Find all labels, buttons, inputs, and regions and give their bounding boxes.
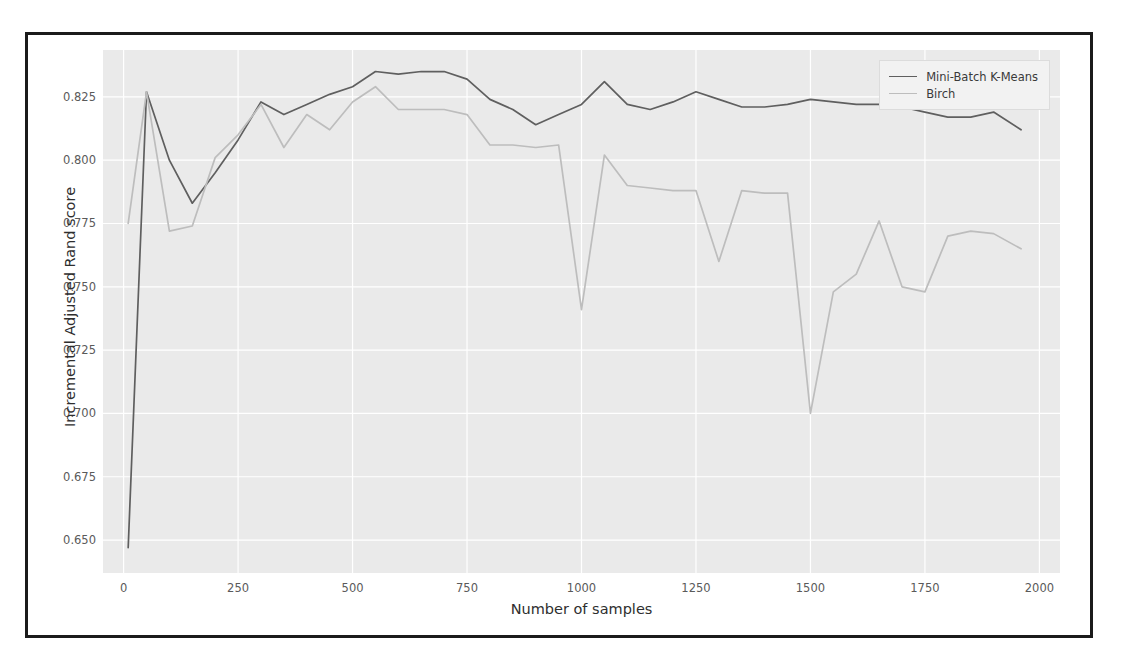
legend[interactable]: Mini-Batch K-MeansBirch xyxy=(879,60,1050,110)
x-tick-label: 500 xyxy=(342,581,364,595)
y-tick-label: 0.675 xyxy=(63,470,96,484)
legend-item[interactable]: Birch xyxy=(889,85,1038,102)
legend-line-swatch xyxy=(889,93,917,94)
x-tick-label: 1500 xyxy=(796,581,825,595)
data-lines xyxy=(103,50,1060,573)
legend-item[interactable]: Mini-Batch K-Means xyxy=(889,68,1038,85)
x-tick-label: 250 xyxy=(227,581,249,595)
y-tick-label: 0.650 xyxy=(63,533,96,547)
legend-line-swatch xyxy=(889,76,917,77)
x-tick-label: 1250 xyxy=(681,581,710,595)
legend-label: Mini-Batch K-Means xyxy=(926,70,1038,84)
scanned-page: 0.6500.6750.7000.7250.7500.7750.8000.825… xyxy=(0,0,1123,670)
page-frame: 0.6500.6750.7000.7250.7500.7750.8000.825… xyxy=(25,32,1093,638)
y-axis-label: Incremental Adjusted Rand score xyxy=(62,157,78,457)
plot-area: Mini-Batch K-MeansBirch xyxy=(103,50,1060,573)
x-tick-label: 0 xyxy=(120,581,127,595)
x-axis-label: Number of samples xyxy=(103,601,1060,617)
x-axis-tick-labels: 025050075010001250150017502000 xyxy=(103,581,1060,599)
y-axis-label-wrapper: Incremental Adjusted Rand score xyxy=(42,35,66,595)
x-tick-label: 1000 xyxy=(567,581,596,595)
x-tick-label: 750 xyxy=(456,581,478,595)
legend-label: Birch xyxy=(926,87,955,101)
x-tick-label: 1750 xyxy=(910,581,939,595)
x-tick-label: 2000 xyxy=(1025,581,1054,595)
y-tick-label: 0.825 xyxy=(63,90,96,104)
figure-canvas: 0.6500.6750.7000.7250.7500.7750.8000.825… xyxy=(28,35,1090,635)
